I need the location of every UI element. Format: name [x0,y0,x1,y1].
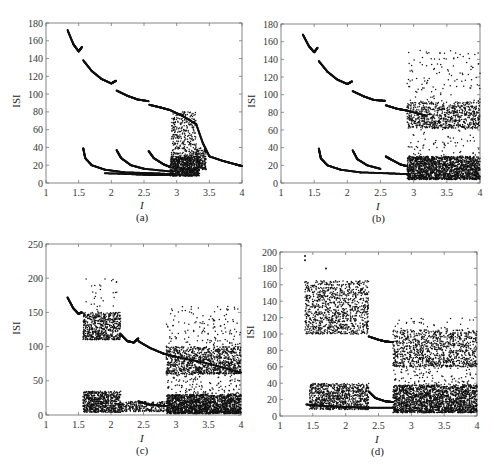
panel-a-caption: (a) [136,211,148,223]
svg-text:180: 180 [263,19,278,30]
svg-text:60: 60 [33,124,43,135]
svg-text:4: 4 [239,419,244,430]
svg-text:120: 120 [262,312,277,323]
svg-text:100: 100 [263,89,278,100]
panel-c-caption: (c) [136,444,148,456]
svg-text:180: 180 [28,18,43,29]
svg-text:4: 4 [240,187,245,198]
svg-text:3: 3 [411,187,416,198]
svg-text:60: 60 [268,125,278,136]
svg-text:50: 50 [33,375,43,386]
svg-text:80: 80 [267,345,277,356]
panel-c-xlabel: I [140,432,144,444]
scatter-panel-b: 11.522.533.54020406080100120140160180 [263,19,483,199]
svg-text:1.5: 1.5 [72,187,85,198]
svg-text:3.5: 3.5 [202,419,215,430]
panel-d-ylabel: ISI [244,325,256,338]
svg-text:1: 1 [44,187,49,198]
svg-text:2: 2 [345,187,350,198]
svg-text:1.5: 1.5 [72,419,85,430]
svg-text:140: 140 [28,53,43,64]
svg-text:200: 200 [28,273,43,284]
scatter-panel-c: 11.522.533.54050100150200250 [28,239,244,431]
svg-text:20: 20 [267,394,277,405]
svg-text:4: 4 [475,420,480,431]
svg-text:100: 100 [262,329,277,340]
svg-text:0: 0 [38,178,43,189]
svg-text:2: 2 [343,420,348,431]
svg-text:2: 2 [109,419,114,430]
svg-text:40: 40 [268,142,278,153]
svg-text:40: 40 [267,378,277,389]
svg-text:200: 200 [262,247,277,258]
svg-text:3: 3 [174,419,179,430]
svg-text:3: 3 [174,187,179,198]
svg-text:2.5: 2.5 [374,187,387,198]
svg-text:0: 0 [273,178,278,189]
panel-b-xlabel: I [376,200,380,212]
panel-a-ylabel: ISI [10,94,22,107]
svg-text:80: 80 [268,107,278,118]
panel-b-caption: (b) [372,212,385,224]
svg-text:140: 140 [263,54,278,65]
svg-text:3.5: 3.5 [441,187,454,198]
svg-text:2.5: 2.5 [372,420,385,431]
svg-text:4: 4 [478,187,483,198]
scatter-panel-a: 11.522.533.54020406080100120140160180 [28,18,245,199]
svg-text:40: 40 [33,142,43,153]
svg-text:1.5: 1.5 [307,420,320,431]
panel-d-xlabel: I [375,433,379,445]
svg-text:1: 1 [279,187,284,198]
figure-canvas: 11.522.533.5402040608010012014016018011.… [0,0,494,469]
panel-d-caption: (d) [371,445,384,457]
svg-text:100: 100 [28,89,43,100]
svg-text:20: 20 [33,160,43,171]
svg-text:3.5: 3.5 [438,420,451,431]
svg-text:120: 120 [263,72,278,83]
svg-text:3.5: 3.5 [203,187,216,198]
svg-text:0: 0 [38,410,43,421]
svg-text:140: 140 [262,296,277,307]
svg-text:20: 20 [268,160,278,171]
scatter-panel-d: 11.522.533.54020406080100120140160180200 [262,247,480,432]
svg-text:60: 60 [267,361,277,372]
svg-text:250: 250 [28,239,43,250]
svg-text:2: 2 [109,187,114,198]
svg-text:0: 0 [272,411,277,422]
svg-text:3: 3 [409,420,414,431]
svg-text:2.5: 2.5 [137,419,150,430]
panel-a-xlabel: I [140,199,144,211]
svg-text:180: 180 [262,263,277,274]
svg-text:1: 1 [44,419,49,430]
svg-text:1.5: 1.5 [308,187,321,198]
svg-text:160: 160 [28,35,43,46]
svg-text:80: 80 [33,106,43,117]
svg-text:120: 120 [28,71,43,82]
svg-text:2.5: 2.5 [138,187,151,198]
svg-text:100: 100 [28,341,43,352]
panel-c-ylabel: ISI [10,321,22,334]
svg-text:1: 1 [278,420,283,431]
svg-text:160: 160 [263,36,278,47]
svg-text:150: 150 [28,307,43,318]
svg-text:160: 160 [262,279,277,290]
figure: 11.522.533.5402040608010012014016018011.… [0,0,494,469]
panel-b-ylabel: ISI [245,94,257,107]
